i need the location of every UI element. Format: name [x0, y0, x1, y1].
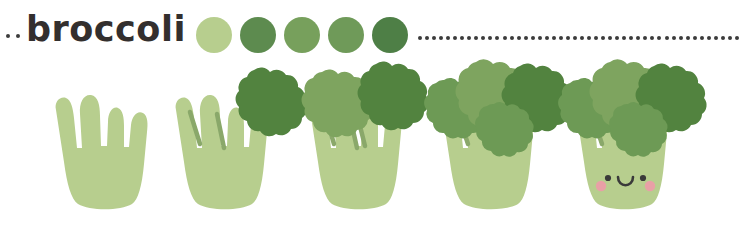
rule-dot-icon: [580, 36, 584, 40]
color-swatch-medium-green[interactable]: [284, 17, 320, 53]
rule-dot-icon: [418, 36, 422, 40]
rule-dot-icon: [425, 36, 429, 40]
cheek-left-icon: [596, 181, 606, 191]
lead-dot-icon: [16, 34, 20, 38]
rule-dot-icon: [608, 36, 612, 40]
rule-dot-icon: [481, 36, 485, 40]
steps-row: [0, 52, 742, 225]
rule-dot-icon: [517, 36, 521, 40]
step-3-second-floret: [296, 52, 446, 225]
rule-dot-icon: [714, 36, 718, 40]
rule-dot-icon: [538, 36, 542, 40]
step-1-stalk: [28, 52, 178, 225]
rule-dot-icon: [531, 36, 535, 40]
cheek-right-icon: [645, 181, 655, 191]
rule-dot-icon: [672, 36, 676, 40]
rule-dot-icon: [545, 36, 549, 40]
rule-dot-icon: [636, 36, 640, 40]
rule-dot-icon: [559, 36, 563, 40]
step-5-add-face: [562, 52, 712, 225]
rule-dot-icon: [622, 36, 626, 40]
rule-dot-icon: [693, 36, 697, 40]
rule-dot-icon: [460, 36, 464, 40]
rule-dot-icon: [721, 36, 725, 40]
rule-dot-icon: [573, 36, 577, 40]
color-swatch-sage-green[interactable]: [328, 17, 364, 53]
rule-dot-icon: [601, 36, 605, 40]
stalk-shape: [56, 95, 148, 209]
rule-dot-icon: [453, 36, 457, 40]
rule-dot-icon: [700, 36, 704, 40]
page-title: broccoli: [26, 6, 186, 52]
color-swatch-dark-green[interactable]: [240, 17, 276, 53]
header: broccoli: [0, 0, 742, 60]
rule-dot-icon: [510, 36, 514, 40]
rule-dot-icon: [629, 36, 633, 40]
rule-dot-icon: [728, 36, 732, 40]
leading-dots: [6, 34, 20, 38]
lead-dot-icon: [6, 34, 10, 38]
rule-dot-icon: [686, 36, 690, 40]
color-swatch-deep-green[interactable]: [372, 17, 408, 53]
rule-dot-icon: [665, 36, 669, 40]
eye-left-icon: [605, 175, 611, 181]
rule-dot-icon: [587, 36, 591, 40]
step-2-first-floret: [162, 52, 312, 225]
color-swatch-light-green[interactable]: [196, 17, 232, 53]
step-4-fill-florets: [428, 52, 578, 225]
rule-dot-icon: [432, 36, 436, 40]
rule-dot-icon: [503, 36, 507, 40]
rule-dot-icon: [735, 36, 739, 40]
rule-dot-icon: [552, 36, 556, 40]
rule-dot-icon: [488, 36, 492, 40]
rule-dot-icon: [615, 36, 619, 40]
color-swatch-row: [196, 17, 408, 53]
rule-dot-icon: [566, 36, 570, 40]
rule-dot-icon: [495, 36, 499, 40]
rule-dot-icon: [650, 36, 654, 40]
rule-dot-icon: [474, 36, 478, 40]
rule-dot-icon: [657, 36, 661, 40]
rule-dot-icon: [679, 36, 683, 40]
tutorial-canvas: broccoli: [0, 0, 742, 225]
rule-dot-icon: [439, 36, 443, 40]
rule-dot-icon: [524, 36, 528, 40]
eye-right-icon: [640, 175, 646, 181]
rule-dot-icon: [643, 36, 647, 40]
rule-dot-icon: [594, 36, 598, 40]
rule-dot-icon: [467, 36, 471, 40]
rule-dot-icon: [707, 36, 711, 40]
dotted-rule: [418, 36, 742, 41]
rule-dot-icon: [446, 36, 450, 40]
